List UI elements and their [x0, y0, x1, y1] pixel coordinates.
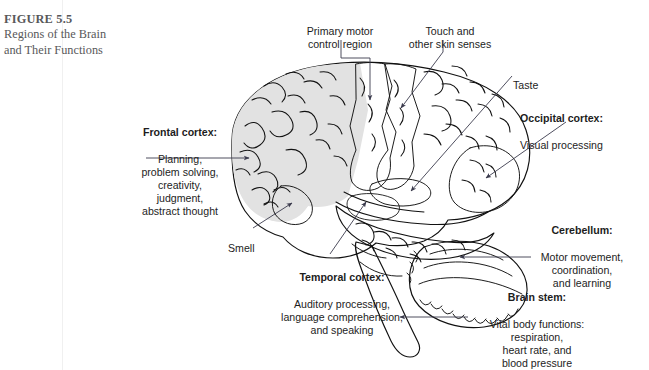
label-taste-body: Taste: [513, 79, 538, 91]
region-occipital: [449, 146, 519, 213]
label-temporal-body: Auditory processing, language comprehens…: [281, 298, 403, 336]
label-touch-body: Touch and other skin senses: [409, 25, 491, 50]
label-taste: Taste: [513, 66, 567, 92]
figure-canvas: FIGURE 5.5 Regions of the Brain and Thei…: [0, 0, 649, 370]
label-brainstem-heading: Brain stem:: [462, 291, 612, 304]
label-brain-stem: Brain stem: Vital body functions: respir…: [462, 278, 612, 370]
label-touch: Touch and other skin senses: [398, 12, 502, 52]
label-temporal-heading: Temporal cortex:: [266, 271, 418, 284]
label-brainstem-body: Vital body functions: respiration, heart…: [490, 318, 585, 370]
label-primary-motor-body: Primary motor control region: [307, 25, 374, 50]
label-frontal-body: Planning, problem solving, creativity, j…: [141, 153, 218, 218]
label-temporal-cortex: Temporal cortex: Auditory processing, la…: [266, 258, 418, 337]
label-smell: Smell: [228, 229, 276, 255]
label-occipital-cortex: Occipital cortex: Visual processing: [520, 99, 646, 152]
label-frontal-cortex: Frontal cortex: Planning, problem solvin…: [118, 113, 242, 219]
label-primary-motor: Primary motor control region: [288, 12, 392, 52]
label-smell-body: Smell: [228, 242, 255, 254]
label-frontal-heading: Frontal cortex:: [118, 126, 242, 139]
label-occipital-body: Visual processing: [520, 139, 603, 151]
label-cerebellum-heading: Cerebellum:: [520, 224, 644, 237]
leader-taste: [411, 76, 512, 191]
label-occipital-heading: Occipital cortex:: [520, 112, 646, 125]
region-somatosensory: [377, 64, 420, 190]
